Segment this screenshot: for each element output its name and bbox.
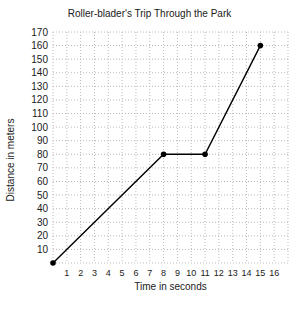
x-tick-label: 12	[214, 268, 224, 278]
x-tick-label: 9	[175, 268, 180, 278]
y-tick-label: 120	[31, 94, 48, 105]
x-tick-label: 11	[200, 268, 209, 278]
data-line	[53, 46, 260, 263]
y-tick-label: 100	[31, 122, 48, 133]
x-tick-label: 3	[92, 268, 97, 278]
y-tick-label: 80	[37, 149, 49, 160]
y-tick-label: 140	[31, 67, 48, 78]
chart: Roller-blader's Trip Through the Park Di…	[0, 0, 299, 311]
y-tick-label: 60	[37, 176, 49, 187]
x-tick-label: 16	[269, 268, 279, 278]
plot-area: 1234567891011121314151610203040506070809…	[0, 0, 299, 311]
x-tick-label: 5	[120, 268, 125, 278]
x-tick-label: 8	[161, 268, 166, 278]
data-point	[161, 151, 167, 157]
y-tick-label: 10	[37, 244, 49, 255]
x-tick-label: 14	[242, 268, 252, 278]
x-tick-label: 13	[228, 268, 238, 278]
y-tick-label: 40	[37, 203, 49, 214]
x-tick-label: 2	[78, 268, 83, 278]
x-tick-label: 4	[106, 268, 111, 278]
y-tick-label: 70	[37, 162, 49, 173]
y-tick-label: 20	[37, 230, 49, 241]
data-point	[50, 260, 56, 266]
y-tick-label: 130	[31, 81, 48, 92]
x-tick-label: 6	[133, 268, 138, 278]
y-tick-label: 50	[37, 190, 49, 201]
y-tick-label: 160	[31, 40, 48, 51]
data-point	[202, 151, 208, 157]
x-tick-label: 10	[186, 268, 196, 278]
data-point	[258, 43, 264, 49]
x-tick-label: 7	[147, 268, 152, 278]
y-tick-label: 110	[32, 108, 48, 119]
y-tick-label: 150	[31, 54, 48, 65]
y-tick-label: 90	[37, 135, 49, 146]
x-axis-label: Time in seconds	[53, 281, 288, 292]
x-tick-label: 1	[64, 268, 69, 278]
y-tick-label: 170	[31, 27, 48, 38]
x-tick-label: 15	[255, 268, 265, 278]
y-tick-label: 30	[37, 217, 49, 228]
